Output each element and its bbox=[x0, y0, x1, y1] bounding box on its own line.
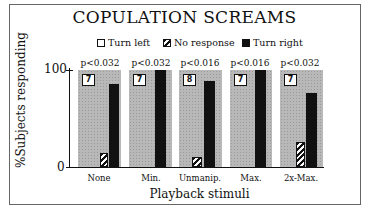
n-badge: 7 bbox=[284, 74, 297, 86]
n-badge: 7 bbox=[234, 74, 247, 86]
black-swatch-icon bbox=[242, 39, 250, 47]
legend-turn-left: Turn left bbox=[97, 37, 150, 48]
group-max: 7 bbox=[230, 70, 272, 167]
n-badge: 7 bbox=[82, 74, 95, 86]
x-tick-label: 2x-Max. bbox=[271, 173, 331, 183]
bar-no-response bbox=[192, 157, 202, 167]
y-tick-0: 0 bbox=[57, 160, 65, 174]
hatched-swatch-icon bbox=[163, 39, 171, 47]
y-axis bbox=[69, 68, 70, 168]
n-badge: 7 bbox=[133, 74, 146, 86]
white-swatch-icon bbox=[97, 39, 105, 47]
bar-turn-right bbox=[255, 70, 266, 167]
y-tick-100: 100 bbox=[44, 62, 67, 76]
x-axis-label: Playback stimuli bbox=[0, 187, 369, 201]
y-axis-label: %Subjects responding bbox=[14, 32, 28, 168]
legend-no-response: No response bbox=[163, 37, 235, 48]
group-min: 7 bbox=[129, 70, 172, 167]
legend-turn-right: Turn right bbox=[242, 37, 303, 48]
p-value: p<0.032 bbox=[270, 58, 330, 68]
n-badge: 8 bbox=[183, 74, 196, 86]
group-none: 7 bbox=[78, 70, 121, 167]
bar-turn-right bbox=[204, 81, 215, 167]
x-axis bbox=[66, 167, 324, 168]
bar-turn-right bbox=[306, 93, 317, 167]
x-tick-label: None bbox=[69, 173, 129, 183]
bar-no-response bbox=[100, 153, 108, 167]
group-2x-max: 7 bbox=[280, 70, 323, 167]
bar-turn-right bbox=[109, 84, 119, 167]
chart-title: COPULATION SCREAMS bbox=[0, 7, 369, 27]
bar-turn-right bbox=[155, 70, 166, 167]
bar-no-response bbox=[296, 142, 305, 167]
group-unmanip: 8 bbox=[179, 70, 222, 167]
